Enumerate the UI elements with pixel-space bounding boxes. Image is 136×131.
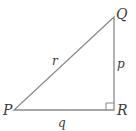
vertex-label-r: R — [116, 102, 128, 118]
side-label-q: q — [58, 116, 66, 130]
vertex-label-q: Q — [116, 6, 128, 22]
vertex-label-p: P — [2, 102, 13, 118]
side-label-r: r — [52, 54, 59, 68]
triangle-pqr — [14, 17, 114, 110]
right-angle-marker — [106, 103, 114, 110]
triangle-diagram: Q P R r p q — [0, 0, 136, 131]
side-label-p: p — [117, 57, 125, 71]
